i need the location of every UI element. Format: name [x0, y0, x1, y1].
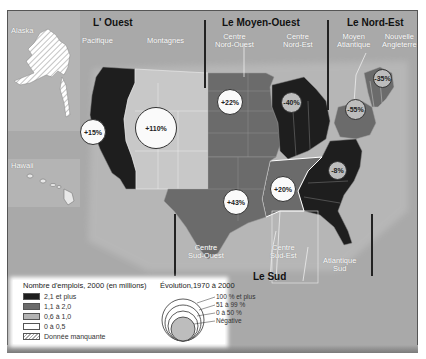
legend-jobs-title: Nombre d'emplois, 2000 (en millions) [23, 281, 147, 290]
region-title-west: L' Ouest [93, 17, 133, 28]
label-pacific: Pacifique [82, 37, 113, 45]
bubble-esc: +20% [270, 176, 296, 202]
bubble-ma: -55% [345, 99, 366, 120]
legend-evo-neg: Négative [216, 317, 242, 324]
divider-west-midwest [204, 20, 206, 88]
bubble-enc: -40% [281, 92, 302, 113]
legend-row-missing: Donnée manquante [23, 332, 106, 340]
divider-south-left [174, 214, 176, 276]
legend-row-dark: 2,1 et plus [23, 292, 76, 300]
region-title-northeast: Le Nord-Est [347, 17, 404, 28]
region-title-south: Le Sud [253, 271, 286, 282]
label-sa: AtlantiqueSud [323, 257, 356, 273]
divider-south-right [371, 214, 373, 276]
label-ne: NouvelleAngleterre [382, 33, 417, 49]
legend-row-medium: 1,1 à 2,0 [23, 302, 71, 310]
swatch-hatch [23, 333, 40, 340]
swatch-medium [23, 303, 40, 310]
legend-evo-51: 51 à 99 % [216, 301, 245, 308]
bubble-wnc: +22% [217, 89, 243, 115]
region-west-north-central [208, 73, 280, 157]
bubble-wsc: +43% [223, 189, 249, 215]
legend-evo-100: 100 % et plus [216, 293, 255, 300]
bubble-sa: -8% [328, 161, 347, 180]
swatch-light [23, 313, 40, 320]
label-esc: CentreSud-Est [270, 244, 297, 260]
legend-row-light: 0,6 à 1,0 [23, 312, 71, 320]
bubble-pacific: +15% [80, 119, 106, 145]
label-mountains: Montagnes [147, 37, 184, 45]
legend-row-white: 0 à 0,5 [23, 322, 65, 330]
bubble-ne: -35% [373, 69, 392, 88]
swatch-white [23, 323, 40, 330]
label-ma: MoyenAtlantique [337, 33, 370, 49]
label-wsc: CentreSud-Ouest [188, 244, 224, 260]
label-enc: CentreNord-Est [283, 33, 313, 49]
legend-evo-title: Évolution,1970 à 2000 [160, 281, 235, 290]
label-alaska: Alaska [11, 26, 34, 35]
legend: Nombre d'emplois, 2000 (en millions) 2,1… [13, 280, 225, 344]
divider-midwest-northeast [327, 20, 329, 110]
label-wnc: CentreNord-Ouest [215, 33, 254, 49]
frame-bottom-shade [7, 345, 418, 353]
legend-evo-0: 0 à 50 % [216, 309, 242, 316]
swatch-dark [23, 293, 40, 300]
region-title-midwest: Le Moyen-Ouest [222, 17, 300, 28]
bubble-mountains: +110% [135, 107, 177, 149]
label-hawaii: Hawaii [11, 161, 34, 170]
